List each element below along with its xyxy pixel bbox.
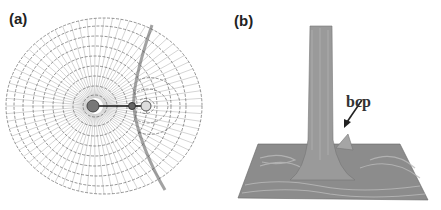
- bcp-peak: [336, 134, 353, 150]
- nucleus-right: [141, 101, 151, 111]
- contour-gradient-map: [0, 0, 220, 210]
- relief-plot: [220, 0, 441, 210]
- bond-critical-point: [129, 103, 136, 110]
- bcp-annotation: bcp: [346, 93, 371, 111]
- panel-b-label: (b): [234, 12, 253, 29]
- panel-a-label: (a): [9, 10, 27, 27]
- nucleus-left: [87, 100, 99, 112]
- panel-a: (a): [0, 0, 220, 210]
- panel-b: (b) bcp: [220, 0, 441, 210]
